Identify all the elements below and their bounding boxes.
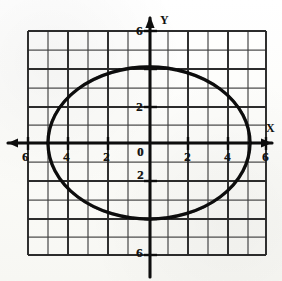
y-axis-label: Y <box>160 14 169 26</box>
x-tick-label-pos4: 4 <box>224 150 231 163</box>
x-axis-arrow-left <box>8 139 18 148</box>
x-tick-label-neg2: 2 <box>103 150 110 163</box>
x-axis-label: X <box>266 122 275 134</box>
x-tick-label-pos6: 6 <box>262 150 269 163</box>
x-tick-label-neg6: 6 <box>22 150 29 163</box>
y-tick-label-2: 2 <box>136 100 143 113</box>
y-tick-label-6: 6 <box>136 24 143 37</box>
x-tick-label-pos2: 2 <box>184 150 191 163</box>
y-tick-label-neg2: 2 <box>137 168 144 181</box>
coordinate-plot <box>0 0 282 281</box>
y-axis-arrow-up <box>145 16 154 28</box>
graph-figure: Y X 6 2 0 2 6 6 4 2 2 4 6 <box>0 0 282 281</box>
x-tick-label-neg4: 4 <box>63 150 70 163</box>
y-tick-label-neg6: 6 <box>136 246 143 259</box>
origin-label: 0 <box>137 145 144 158</box>
